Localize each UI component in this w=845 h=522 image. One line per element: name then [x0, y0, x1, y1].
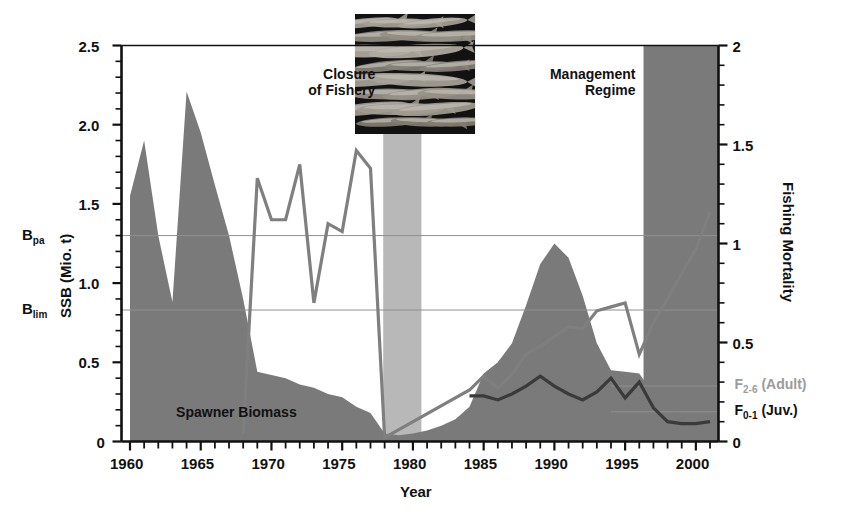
xtick-label-1985: 1985 [464, 456, 497, 471]
xtick-label-1960: 1960 [110, 456, 143, 471]
ytick-label-right-0: 0 [733, 435, 741, 450]
ytick-label-left-1.5: 1.5 [79, 197, 100, 212]
ytick-label-right-1.5: 1.5 [733, 138, 754, 153]
ytick-label-left-2.0: 2.0 [79, 118, 100, 133]
xtick-label-1995: 1995 [605, 456, 638, 471]
ytick-label-left-0.5: 0.5 [79, 355, 100, 370]
xtick-label-2000: 2000 [676, 456, 709, 471]
threshold-label-blim: Blim [22, 301, 47, 320]
band-label-management-regime: ManagementRegime [522, 66, 636, 99]
ytick-label-left-0: 0 [97, 435, 105, 450]
legend-f-juv: F0-1 (Juv.) [735, 403, 798, 421]
band-label-closure-of-fishery: Closureof Fishery [263, 66, 375, 99]
y-axis-title-right: Fishing Mortality [781, 182, 796, 302]
ytick-label-right-1: 1 [733, 237, 741, 252]
ytick-label-left-1.0: 1.0 [79, 276, 100, 291]
chart-canvas [0, 0, 845, 522]
band-management-regime [644, 46, 719, 442]
xtick-label-1980: 1980 [393, 456, 426, 471]
xtick-label-1975: 1975 [322, 456, 355, 471]
x-axis-title: Year [400, 484, 432, 499]
chart-figure: 196019651970197519801985199019952000Year… [0, 0, 845, 522]
ytick-label-right-2: 2 [733, 39, 741, 54]
xtick-label-1965: 1965 [181, 456, 214, 471]
ytick-label-right-0.5: 0.5 [733, 336, 754, 351]
ytick-label-left-2.5: 2.5 [79, 39, 100, 54]
y-axis-title-left: SSB (Mio. t) [58, 234, 73, 318]
annotation-spawner-biomass-label: Spawner Biomass [176, 404, 297, 420]
xtick-label-1970: 1970 [251, 456, 284, 471]
threshold-label-bpa: Bpa [22, 227, 45, 246]
xtick-label-1990: 1990 [534, 456, 567, 471]
legend-f-adult: F2-6 (Adult) [735, 377, 807, 395]
